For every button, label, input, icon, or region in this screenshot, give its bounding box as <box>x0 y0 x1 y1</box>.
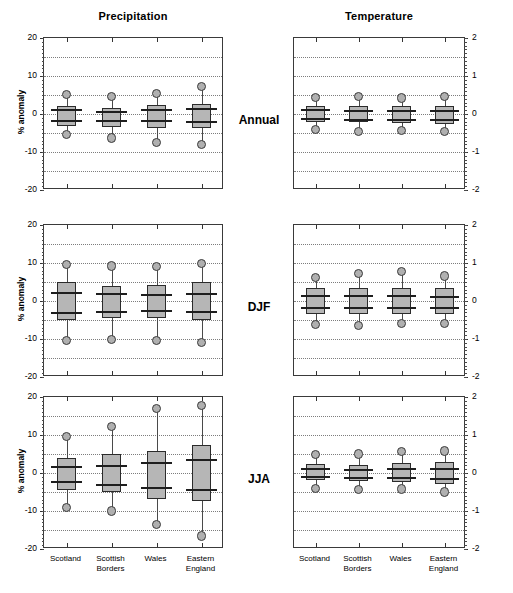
y-minor-tick <box>42 358 45 359</box>
y-minor-tick <box>464 286 467 287</box>
y-minor-tick <box>464 171 467 172</box>
y-minor-tick <box>464 534 467 535</box>
y-minor-tick <box>42 427 45 428</box>
x-tick <box>202 184 203 188</box>
y-minor-tick <box>42 446 45 447</box>
y-minor-tick <box>42 331 45 332</box>
x-tick <box>67 225 68 229</box>
y-minor-tick <box>42 549 45 550</box>
y-minor-tick <box>42 278 45 279</box>
y-minor-tick <box>42 38 45 39</box>
box-rect <box>57 458 76 490</box>
y-minor-tick <box>42 68 45 69</box>
y-minor-tick <box>464 465 467 466</box>
y-minor-tick <box>42 462 45 463</box>
y-minor-tick <box>464 141 467 142</box>
y-minor-tick <box>464 526 467 527</box>
y-minor-tick <box>42 42 45 43</box>
y-minor-tick <box>464 156 467 157</box>
y-minor-tick <box>42 252 45 253</box>
x-tick <box>157 543 158 547</box>
lower-percentile-bar <box>430 478 460 480</box>
x-tick <box>316 38 317 42</box>
y-minor-tick <box>42 141 45 142</box>
y-minor-tick <box>464 125 467 126</box>
gridline <box>294 416 464 417</box>
gridline <box>294 263 464 264</box>
y-minor-tick <box>42 286 45 287</box>
box-rect <box>435 462 453 484</box>
y-minor-tick <box>464 507 467 508</box>
y-minor-tick <box>42 271 45 272</box>
y-minor-tick <box>464 405 467 406</box>
y-minor-tick <box>464 424 467 425</box>
gridline <box>294 282 464 283</box>
y-tick-label: 2 <box>472 391 493 401</box>
y-minor-tick <box>42 160 45 161</box>
y-minor-tick <box>464 312 467 313</box>
y-minor-tick <box>464 38 467 39</box>
y-minor-tick <box>464 148 467 149</box>
x-tick <box>402 397 403 401</box>
row-label-djf: DJF <box>228 300 290 314</box>
x-tick <box>67 371 68 375</box>
y-minor-tick <box>42 106 45 107</box>
y-minor-tick <box>42 91 45 92</box>
y-minor-tick <box>464 186 467 187</box>
gridline <box>294 339 464 340</box>
upper-extreme-marker <box>107 422 116 431</box>
y-minor-tick <box>464 420 467 421</box>
plot-panel-precipitation-djf <box>43 224 223 376</box>
upper-percentile-bar <box>186 293 217 295</box>
y-minor-tick <box>464 175 467 176</box>
y-minor-tick <box>42 53 45 54</box>
y-tick-label: 0 <box>472 108 493 118</box>
upper-extreme-marker <box>440 446 449 455</box>
y-tick-label: 20 <box>16 219 37 229</box>
upper-percentile-bar <box>301 468 331 470</box>
x-tick <box>112 371 113 375</box>
x-tick <box>402 38 403 42</box>
plot-panel-temperature-annual <box>293 37 465 189</box>
lower-percentile-bar <box>141 487 172 489</box>
y-minor-tick <box>42 488 45 489</box>
y-minor-tick <box>464 282 467 283</box>
lower-extreme-marker <box>397 126 406 135</box>
y-minor-tick <box>464 114 467 115</box>
y-minor-tick <box>464 462 467 463</box>
y-minor-tick <box>42 335 45 336</box>
y-minor-tick <box>464 129 467 130</box>
y-minor-tick <box>42 519 45 520</box>
y-minor-tick <box>42 412 45 413</box>
y-minor-tick <box>464 397 467 398</box>
y-minor-tick <box>42 408 45 409</box>
box-rect <box>147 451 166 500</box>
lower-percentile-bar <box>387 307 417 309</box>
lower-extreme-marker <box>107 506 116 515</box>
y-minor-tick <box>464 255 467 256</box>
x-tick <box>359 397 360 401</box>
y-tick-label: -1 <box>472 333 493 343</box>
column-title-temperature: Temperature <box>293 10 465 22</box>
lower-percentile-bar <box>96 484 127 486</box>
y-minor-tick <box>464 473 467 474</box>
upper-extreme-marker <box>62 260 71 269</box>
y-minor-tick <box>464 412 467 413</box>
y-minor-tick <box>464 545 467 546</box>
y-minor-tick <box>464 519 467 520</box>
y-minor-tick <box>42 76 45 77</box>
y-tick-label: 1 <box>472 257 493 267</box>
y-minor-tick <box>464 233 467 234</box>
y-minor-tick <box>42 297 45 298</box>
gridline <box>294 152 464 153</box>
y-minor-tick <box>42 465 45 466</box>
upper-extreme-marker <box>397 93 406 102</box>
y-minor-tick <box>464 290 467 291</box>
y-minor-tick <box>464 68 467 69</box>
y-minor-tick <box>464 225 467 226</box>
y-tick-label: -20 <box>16 543 37 553</box>
y-minor-tick <box>464 358 467 359</box>
y-minor-tick <box>42 229 45 230</box>
x-tick <box>202 543 203 547</box>
x-tick <box>316 543 317 547</box>
